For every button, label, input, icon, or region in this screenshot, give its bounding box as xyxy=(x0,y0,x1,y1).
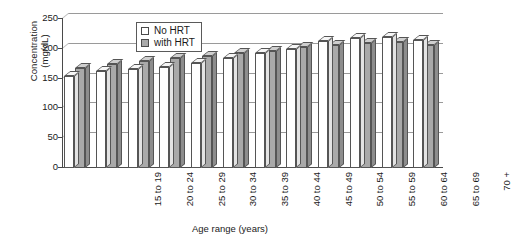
bar-side-face xyxy=(328,37,333,168)
bar-side-face xyxy=(339,41,344,168)
x-axis-tick-label: 70 + xyxy=(501,172,513,241)
bar-front-face xyxy=(64,76,74,168)
bar-side-face xyxy=(201,59,206,168)
plot-area xyxy=(62,18,443,168)
bar-side-face xyxy=(106,67,111,168)
bar-no-hrt xyxy=(223,58,233,168)
bar-no-hrt xyxy=(64,76,74,168)
legend-label-no-hrt: No HRT xyxy=(154,26,190,36)
gridline xyxy=(68,13,443,14)
bar-side-face xyxy=(423,37,428,168)
y-axis-tick-label: 200 xyxy=(28,43,58,53)
bar-no-hrt xyxy=(286,49,296,168)
bar-front-face xyxy=(413,40,423,168)
bar-front-face xyxy=(318,41,328,168)
bar-front-face xyxy=(159,67,169,168)
bar-side-face xyxy=(371,39,376,168)
bar-side-face xyxy=(360,34,365,168)
bar-no-hrt xyxy=(350,38,360,168)
bar-front-face xyxy=(286,49,296,168)
x-axis-tick-label: 65 to 69 xyxy=(470,172,482,241)
legend-item-no-hrt: No HRT xyxy=(141,25,195,37)
bar-front-face xyxy=(255,53,265,168)
bar-no-hrt xyxy=(96,71,106,168)
x-axis-title: Age range (years) xyxy=(0,223,460,234)
y-axis-tick-label: 50 xyxy=(28,132,58,142)
bar-side-face xyxy=(117,60,122,168)
bar-side-face xyxy=(169,63,174,168)
bar-side-face xyxy=(149,57,154,168)
bar-side-face xyxy=(392,33,397,168)
bar-no-hrt xyxy=(191,63,201,168)
bar-front-face xyxy=(96,71,106,168)
bar-side-face xyxy=(307,43,312,168)
bar-side-face xyxy=(265,49,270,168)
y-axis-line xyxy=(62,18,63,168)
bar-side-face xyxy=(212,52,217,168)
bar-side-face xyxy=(180,54,185,168)
legend: No HRT with HRT xyxy=(136,22,202,52)
bar-side-face xyxy=(74,72,79,168)
bar-no-hrt xyxy=(382,37,392,168)
bar-side-face xyxy=(403,38,408,168)
y-axis-tick-label: 250 xyxy=(28,13,58,23)
bar-no-hrt xyxy=(413,40,423,168)
bar-no-hrt xyxy=(159,67,169,168)
bar-side-face xyxy=(85,65,90,168)
y-axis-tick-label: 0 xyxy=(28,162,58,172)
legend-swatch-icon-with-hrt xyxy=(141,39,149,47)
legend-item-with-hrt: with HRT xyxy=(141,37,195,49)
bar-side-face xyxy=(244,49,249,168)
bar-side-face xyxy=(296,45,301,168)
bar-no-hrt xyxy=(318,41,328,168)
legend-label-with-hrt: with HRT xyxy=(154,38,195,48)
bar-no-hrt xyxy=(128,69,138,168)
bar-front-face xyxy=(191,63,201,168)
bar-side-face xyxy=(434,41,439,168)
bar-front-face xyxy=(382,37,392,168)
bar-front-face xyxy=(350,38,360,168)
legend-swatch-icon-no-hrt xyxy=(141,27,149,35)
bar-no-hrt xyxy=(255,53,265,168)
bar-side-face xyxy=(276,47,281,168)
bar-front-face xyxy=(128,69,138,168)
y-axis-tick-label: 150 xyxy=(28,73,58,83)
bar-front-face xyxy=(223,58,233,168)
y-axis-tick-label: 100 xyxy=(28,102,58,112)
bar-side-face xyxy=(138,65,143,168)
bar-side-face xyxy=(233,54,238,168)
